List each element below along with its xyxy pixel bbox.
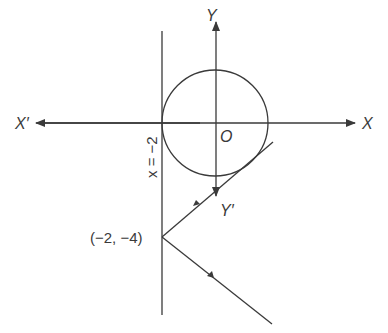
arrow-icon: [207, 271, 214, 278]
label-origin: O: [220, 128, 232, 145]
label-y-positive: Y: [206, 7, 218, 24]
label-reflection-point: (−2, −4): [90, 229, 143, 246]
label-x-positive: X: [361, 115, 374, 132]
reflected-ray: [162, 142, 273, 237]
label-y-negative: Y′: [220, 202, 235, 219]
label-x-negative: X′: [14, 115, 30, 132]
reflection-diagram: X′ X Y Y′ O x = −2 (−2, −4): [0, 0, 388, 333]
label-vertical-line: x = −2: [143, 136, 160, 178]
incident-ray: [162, 237, 272, 324]
